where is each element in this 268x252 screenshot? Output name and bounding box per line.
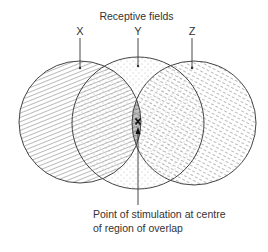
diagram-canvas: Receptive fields X Y Z Point of stimulat… [0, 0, 268, 252]
field-label-y: Y [134, 25, 142, 37]
field-label-x: X [76, 25, 84, 37]
field-x-fill [19, 61, 141, 183]
diagram-title: Receptive fields [99, 10, 173, 22]
receptive-fields-diagram: Receptive fields X Y Z Point of stimulat… [0, 0, 268, 252]
caption-line-2: of region of overlap [93, 222, 183, 234]
field-z-fill [132, 61, 256, 185]
caption-line-1: Point of stimulation at centre [93, 208, 226, 220]
field-label-z: Z [189, 25, 196, 37]
